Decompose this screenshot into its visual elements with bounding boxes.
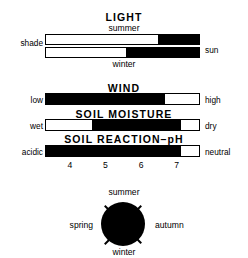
ph-tick-4: 4 — [67, 160, 72, 170]
season-label-autumn: autumn — [155, 221, 184, 230]
ph-tick-5: 5 — [103, 160, 108, 170]
bar-soil-reaction-ph-fill — [46, 146, 181, 156]
ph-tick-6: 6 — [139, 160, 144, 170]
light-right-label: sun — [205, 46, 218, 55]
bar-light-summer-fill — [158, 35, 199, 44]
season-tick-sw — [104, 239, 110, 245]
section-title-soil-reaction: SOIL REACTION–pH — [0, 134, 248, 145]
light-summer-label: summer — [0, 24, 248, 33]
wind-left-label: low — [31, 96, 43, 105]
light-left-label: shade — [20, 39, 43, 48]
section-title-light: LIGHT — [0, 12, 248, 23]
soil-moisture-left-label: wet — [30, 122, 43, 131]
figure-sheet: LIGHT summer shade sun winter WIND low h… — [0, 0, 248, 258]
bar-light-winter-fill — [126, 48, 199, 57]
season-label-winter: winter — [0, 248, 248, 257]
ph-scale-axis: 4 5 6 7 — [45, 160, 200, 172]
season-wheel: summer autumn winter spring — [0, 186, 248, 258]
light-winter-label: winter — [0, 60, 248, 69]
bar-soil-moisture-fill — [92, 120, 181, 130]
bar-light-summer[interactable] — [45, 34, 200, 45]
soil-reaction-right-label: neutral — [205, 148, 230, 157]
season-tick-se — [136, 238, 142, 244]
wind-right-label: high — [205, 96, 221, 105]
ph-tick-7: 7 — [174, 160, 179, 170]
bar-wind-fill — [46, 94, 165, 104]
season-label-summer: summer — [0, 188, 248, 197]
bar-soil-reaction-ph[interactable] — [45, 145, 200, 157]
bar-light-winter[interactable] — [45, 47, 200, 58]
bar-wind[interactable] — [45, 93, 200, 105]
soil-reaction-left-label: acidic — [22, 148, 43, 157]
season-label-spring: spring — [70, 221, 93, 230]
bar-soil-moisture[interactable] — [45, 119, 200, 131]
soil-moisture-right-label: dry — [205, 122, 217, 131]
